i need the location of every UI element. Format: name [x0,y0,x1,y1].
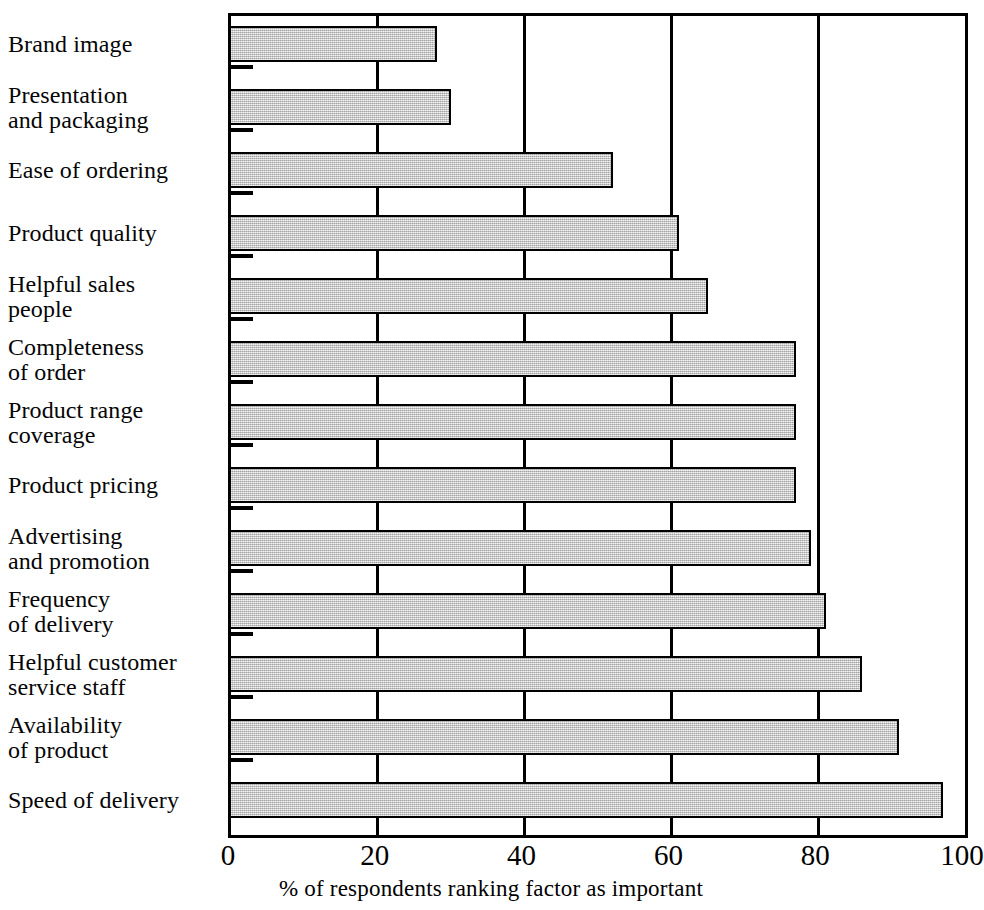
category-label: Product pricing [0,454,218,517]
category-label: Ease of ordering [0,139,218,202]
bar [229,656,862,692]
bar [229,719,899,755]
bar [229,89,451,125]
x-tick-label-80: 80 [801,838,830,872]
x-tick-label-20: 20 [360,838,389,872]
x-axis-title: % of respondents ranking factor as impor… [0,876,982,902]
category-tick [231,380,253,384]
category-tick [231,632,253,636]
bar [229,152,613,188]
category-tick [231,695,253,699]
category-tick [231,317,253,321]
x-tick-label-40: 40 [507,838,536,872]
x-tick-label-0: 0 [221,838,236,872]
category-label: Helpful sales people [0,265,218,328]
category-label: Product quality [0,202,218,265]
plot-inner [231,16,965,835]
x-axis-tick-labels: 020406080100 [228,838,962,872]
category-tick [231,758,253,762]
gridline-80 [817,16,820,835]
bar [229,530,811,566]
category-label: Product range coverage [0,391,218,454]
category-tick [231,191,253,195]
category-tick [231,65,253,69]
bar [229,782,943,818]
x-tick-label-100: 100 [940,838,984,872]
bar [229,467,796,503]
category-label: Helpful customer service staff [0,643,218,706]
x-tick-label-60: 60 [654,838,683,872]
bar [229,215,679,251]
category-tick [231,506,253,510]
category-label: Advertising and promotion [0,517,218,580]
category-label: Speed of delivery [0,769,218,832]
category-tick [231,443,253,447]
category-tick [231,569,253,573]
bar [229,341,796,377]
category-label: Completeness of order [0,328,218,391]
category-label: Frequency of delivery [0,580,218,643]
category-label: Brand image [0,13,218,76]
bar [229,278,708,314]
category-tick [231,254,253,258]
bar [229,26,437,62]
category-tick [231,128,253,132]
plot-area [228,13,968,838]
category-label: Presentation and packaging [0,76,218,139]
category-label: Availability of product [0,706,218,769]
category-axis: Brand imagePresentation and packagingEas… [0,13,224,832]
bar [229,404,796,440]
bar [229,593,826,629]
